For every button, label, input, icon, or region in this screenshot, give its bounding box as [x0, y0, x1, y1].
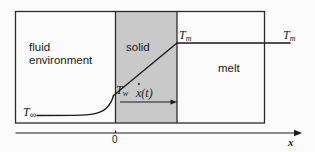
- fluid-temperature-curve: [37, 96, 114, 116]
- label-t-infinity-base: T: [23, 105, 30, 119]
- label-t-wall: Tw: [116, 84, 128, 98]
- label-t-melt-right-subscript: m: [290, 34, 296, 43]
- x-axis-label: x: [288, 136, 294, 149]
- label-t-melt-interface: Tm: [179, 29, 191, 43]
- x-axis-origin-label-text: 0: [112, 134, 118, 145]
- region-label-solid-text: solid: [126, 41, 150, 53]
- region-label-fluid-line1: fluid: [29, 41, 92, 54]
- label-t-melt-interface-subscript: m: [186, 34, 192, 43]
- label-t-infinity-subscript: ∞: [30, 110, 36, 120]
- label-t-infinity: T∞: [23, 106, 36, 120]
- label-t-wall-base: T: [116, 83, 123, 97]
- label-t-wall-subscript: w: [123, 89, 128, 98]
- x-axis-label-text: x: [288, 136, 294, 148]
- label-interface-velocity: x(t): [136, 87, 153, 101]
- diagram-canvas: [0, 0, 315, 152]
- label-t-melt-interface-base: T: [179, 28, 186, 42]
- solid-region-fill: [116, 12, 178, 124]
- phase-change-diagram: fluid environment solid melt T∞ Tw Tm Tm…: [0, 0, 315, 152]
- region-label-fluid-line2: environment: [29, 54, 92, 67]
- x-axis-origin-label: 0: [112, 134, 118, 146]
- region-label-solid: solid: [126, 41, 150, 54]
- label-interface-velocity-x: x: [136, 86, 141, 100]
- label-t-melt-right-base: T: [283, 28, 290, 42]
- region-label-melt: melt: [218, 62, 240, 75]
- x-axis-arrowhead: [294, 130, 302, 137]
- region-label-fluid: fluid environment: [29, 41, 92, 67]
- overdot-icon: [138, 83, 140, 85]
- label-t-melt-right: Tm: [283, 29, 295, 43]
- label-interface-velocity-xdot: x: [136, 87, 141, 101]
- region-label-melt-text: melt: [218, 62, 240, 74]
- label-interface-velocity-paren: (t): [141, 86, 152, 100]
